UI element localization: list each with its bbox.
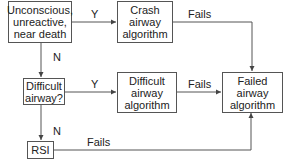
node-text: algorithm [124, 99, 169, 111]
edge-label-yes: Y [91, 8, 98, 20]
edge-label-fails: Fails [188, 8, 211, 20]
node-text: algorithm [230, 99, 275, 111]
node-text: airway [131, 87, 163, 99]
node-text: RSI [31, 144, 49, 156]
node-text: Difficult [129, 75, 165, 87]
node-unconscious: Unconscious, unreactive, near death [8, 1, 72, 43]
node-text: Failed [238, 75, 268, 87]
node-text: near death [14, 28, 67, 40]
node-text: airway? [25, 92, 63, 104]
node-text: Unconscious, [7, 4, 73, 16]
edge-label-no: N [53, 51, 61, 63]
node-rsi: RSI [27, 141, 54, 159]
node-text: Crash [130, 4, 159, 16]
edge-label-yes: Y [91, 78, 98, 90]
node-text: algorithm [122, 28, 167, 40]
node-text: airway [237, 87, 269, 99]
node-crash-airway-algorithm: Crash airway algorithm [117, 1, 173, 43]
node-text: airway [129, 16, 161, 28]
node-failed-airway-algorithm: Failed airway algorithm [222, 72, 283, 113]
edge-label-no: N [53, 125, 61, 137]
node-difficult-airway-question: Difficult airway? [23, 78, 65, 105]
node-text: unreactive, [13, 16, 67, 28]
edge-label-fails: Fails [87, 136, 110, 148]
node-text: Difficult [26, 80, 62, 92]
node-difficult-airway-algorithm: Difficult airway algorithm [117, 72, 177, 113]
edge-label-fails: Fails [188, 78, 211, 90]
